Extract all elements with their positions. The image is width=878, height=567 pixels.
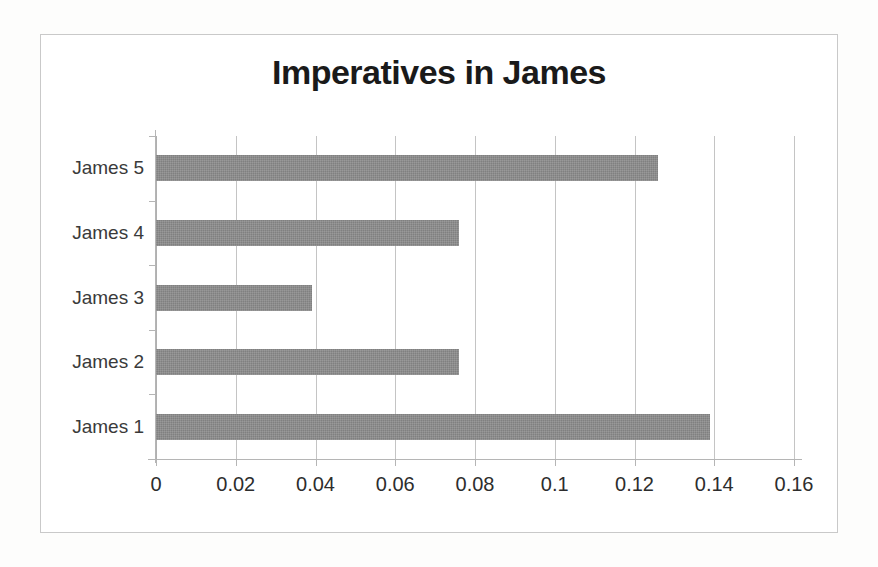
x-axis-tick: [316, 459, 317, 466]
x-axis-label: 0: [150, 473, 161, 496]
category-label: James 3: [72, 287, 144, 309]
x-axis-label: 0.12: [615, 473, 654, 496]
chart-title: Imperatives in James: [41, 53, 837, 92]
x-axis-tick: [635, 459, 636, 466]
category-label: James 5: [72, 157, 144, 179]
bar: [156, 349, 459, 375]
y-axis-tick: [149, 459, 156, 460]
chart-frame: Imperatives in James 00.020.040.060.080.…: [40, 34, 838, 533]
bar: [156, 220, 459, 246]
category-label: James 4: [72, 222, 144, 244]
x-axis-tick: [236, 459, 237, 466]
x-axis-tick: [475, 459, 476, 466]
bar-row: James 1: [156, 414, 794, 440]
x-axis-label: 0.1: [541, 473, 569, 496]
x-axis-label: 0.04: [296, 473, 335, 496]
x-axis-label: 0.14: [695, 473, 734, 496]
x-axis-tick: [794, 459, 795, 466]
x-axis-tick: [714, 459, 715, 466]
bar-row: James 5: [156, 155, 794, 181]
y-axis-tick: [149, 201, 156, 202]
x-axis-tick: [156, 459, 157, 466]
x-axis-tick: [555, 459, 556, 466]
x-axis-label: 0.06: [376, 473, 415, 496]
y-axis-tick: [149, 330, 156, 331]
bar: [156, 285, 312, 311]
bar-row: James 3: [156, 285, 794, 311]
category-label: James 2: [72, 351, 144, 373]
category-label: James 1: [72, 416, 144, 438]
bar-row: James 2: [156, 349, 794, 375]
x-axis-tick: [395, 459, 396, 466]
x-axis-label: 0.08: [456, 473, 495, 496]
bar-row: James 4: [156, 220, 794, 246]
plot-area: 00.020.040.060.080.10.120.140.16James 5J…: [156, 136, 794, 459]
y-axis-tick: [149, 136, 156, 137]
x-axis-label: 0.02: [216, 473, 255, 496]
y-axis-tick: [149, 394, 156, 395]
bar: [156, 414, 710, 440]
x-axis-label: 0.16: [775, 473, 814, 496]
x-gridline: [794, 136, 795, 459]
bar: [156, 155, 658, 181]
y-axis-tick: [149, 265, 156, 266]
